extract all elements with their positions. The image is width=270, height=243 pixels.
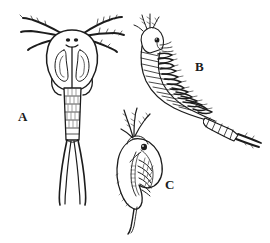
specimen-label-b: B (195, 60, 204, 73)
specimen-b-fairy-shrimp (134, 14, 261, 148)
specimen-a-copepod (20, 15, 124, 205)
specimen-label-c: C (165, 178, 175, 191)
specimen-b-eye (155, 37, 160, 42)
specimen-c-water-flea (116, 108, 162, 234)
specimen-b-eye-highlight (156, 38, 157, 40)
specimen-label-a: A (18, 110, 28, 123)
specimen-a-right-antenna-setae (97, 15, 122, 47)
zooplankton-figure: A B C (0, 0, 270, 243)
specimen-a-caudal-ramus-right-inner (74, 141, 80, 204)
specimen-c-carapace (117, 139, 162, 210)
specimen-c-antennae (121, 108, 150, 138)
specimen-c-compound-eye (141, 144, 147, 150)
figure-drawing-canvas (0, 0, 270, 243)
specimen-a-eye-left (66, 38, 70, 41)
specimen-b-thorax-segments (141, 52, 191, 110)
specimen-c-eye-highlight (142, 145, 144, 147)
specimen-a-caudal-ramus-left-inner (65, 141, 71, 204)
specimen-a-eye-right (74, 38, 78, 41)
